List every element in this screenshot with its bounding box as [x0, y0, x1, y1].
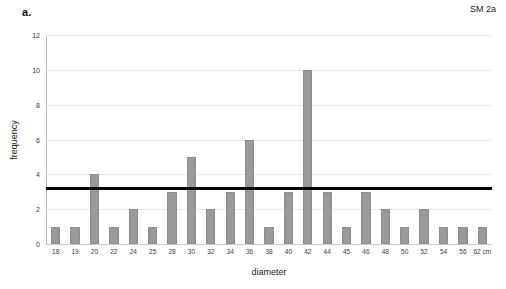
series-annotation-label: SM 2a	[470, 4, 496, 14]
bar	[129, 209, 138, 244]
bar	[167, 192, 176, 244]
x-tick-label: 56	[459, 248, 466, 255]
x-tick-label: 28	[168, 248, 175, 255]
y-tick-label-0: 0	[36, 241, 40, 248]
x-tick-label: 34	[227, 248, 234, 255]
bar	[381, 209, 390, 244]
x-tick-label: 30	[188, 248, 195, 255]
y-tick-label-12: 12	[32, 32, 40, 39]
x-tick-label: 62 cm	[473, 248, 491, 255]
x-tick-label: 50	[401, 248, 408, 255]
x-tick-label: 48	[382, 248, 389, 255]
y-tick-label-2: 2	[36, 206, 40, 213]
bar	[109, 227, 118, 244]
x-tick-label: 46	[362, 248, 369, 255]
x-tick-label: 24	[130, 248, 137, 255]
bar	[458, 227, 467, 244]
x-tick-label: 45	[343, 248, 350, 255]
bar	[51, 227, 60, 244]
bar	[226, 192, 235, 244]
bar	[342, 227, 351, 244]
x-tick-label: 25	[149, 248, 156, 255]
y-tick-label-4: 4	[36, 171, 40, 178]
gridline-y-0: 0	[46, 244, 492, 245]
x-tick-label: 40	[285, 248, 292, 255]
bar	[70, 227, 79, 244]
bar	[264, 227, 273, 244]
x-tick-label: 38	[265, 248, 272, 255]
y-tick-label-10: 10	[32, 66, 40, 73]
reference-line	[46, 187, 492, 190]
x-tick-label: 36	[246, 248, 253, 255]
y-tick-label-6: 6	[36, 136, 40, 143]
bar	[419, 209, 428, 244]
y-axis-title-text: frequency	[9, 120, 19, 160]
y-axis-title: frequency	[8, 35, 20, 244]
figure-panel-a: a. SM 2a frequency 024681012 18192022242…	[0, 0, 506, 289]
bars-group	[46, 35, 492, 244]
x-tick-label: 20	[91, 248, 98, 255]
x-axis-title: diameter	[46, 267, 492, 277]
bar	[478, 227, 487, 244]
bar	[323, 192, 332, 244]
x-tick-label: 52	[421, 248, 428, 255]
panel-letter-label: a.	[22, 6, 32, 18]
bar	[206, 209, 215, 244]
bar	[439, 227, 448, 244]
x-tick-label: 19	[71, 248, 78, 255]
x-tick-label: 18	[52, 248, 59, 255]
x-tick-label: 32	[207, 248, 214, 255]
x-tick-label: 54	[440, 248, 447, 255]
bar	[148, 227, 157, 244]
x-tick-label: 42	[304, 248, 311, 255]
plot-area: 024681012 181920222425283032343638404244…	[46, 35, 492, 244]
bar	[400, 227, 409, 244]
bar	[245, 140, 254, 245]
bar	[303, 70, 312, 244]
bar	[187, 157, 196, 244]
x-tick-label: 44	[324, 248, 331, 255]
bar	[361, 192, 370, 244]
y-tick-label-8: 8	[36, 101, 40, 108]
bar	[90, 174, 99, 244]
x-tick-label: 22	[110, 248, 117, 255]
bar	[284, 192, 293, 244]
